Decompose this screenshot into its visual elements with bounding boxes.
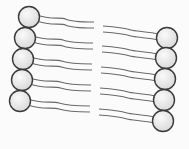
phosphate-head-icon	[155, 69, 176, 90]
lipid-tail	[37, 15, 94, 22]
left-leaflet-heads	[10, 7, 40, 112]
right-leaflet-tails	[99, 26, 159, 123]
phosphate-head-icon	[10, 91, 31, 112]
phosphate-head-icon	[157, 28, 178, 49]
left-leaflet-tails	[28, 15, 94, 112]
phosphate-head-icon	[153, 111, 174, 132]
phosphate-head-icon	[154, 90, 175, 111]
phosphate-head-icon	[12, 70, 33, 91]
lipid-tail	[33, 36, 93, 43]
phosphate-head-icon	[15, 28, 36, 49]
lipid-tail	[28, 99, 90, 106]
phospholipid-bilayer-diagram	[0, 0, 189, 149]
lipid-tail	[30, 78, 91, 85]
phosphate-head-icon	[156, 48, 177, 69]
lipid-tail	[31, 57, 92, 64]
phosphate-head-icon	[13, 49, 34, 70]
right-leaflet-heads	[153, 28, 178, 132]
phosphate-head-icon	[19, 7, 40, 28]
